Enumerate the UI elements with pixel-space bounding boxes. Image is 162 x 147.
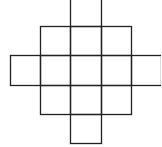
- grid-cell-r2-c2: [71, 56, 102, 86]
- grid-cell-r3-c1: [41, 86, 71, 115]
- grid-cell-r3-c2: [71, 86, 102, 115]
- grid-cell-r1-c2: [71, 27, 102, 56]
- grid-cell-r2-c3: [102, 56, 132, 86]
- grid-cell-r1-c1: [41, 27, 71, 56]
- grid-cell-r3-c3: [102, 86, 132, 115]
- grid-cell-r2-c4: [132, 56, 162, 86]
- grid-cell-r1-c3: [102, 27, 132, 56]
- grid-cell-r2-c0: [11, 56, 41, 86]
- grid-cell-r4-c2: [71, 115, 102, 144]
- cross-grid-diagram: [0, 0, 161, 147]
- grid-cell-r2-c1: [41, 56, 71, 86]
- grid-cell-r0-c2: [71, 0, 102, 27]
